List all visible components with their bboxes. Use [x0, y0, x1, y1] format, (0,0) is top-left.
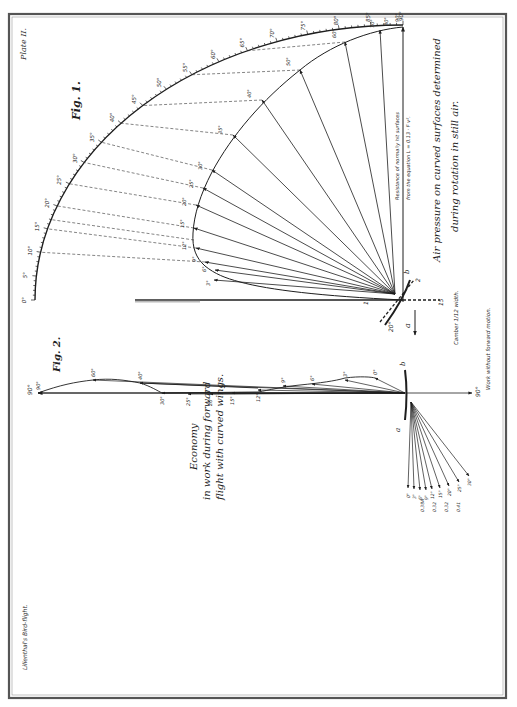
fig1: Fig. 1. 0°5°10°15°20°25°30°35°40°45°50°5…	[21, 11, 460, 345]
fig1-dashed-blade	[380, 280, 414, 322]
fig2-fan-label: 20°	[447, 488, 452, 496]
arc-tick-label: 15°	[34, 221, 40, 231]
fig2-fan-value: 0.32	[444, 502, 449, 512]
fig1-outer-arc	[35, 25, 403, 300]
fig2-polar-label: 40°	[137, 371, 143, 380]
fig2-wing-section	[405, 370, 407, 420]
arc-tick-label: 30°	[72, 153, 78, 163]
arc-tick-label: 80°	[333, 15, 339, 25]
arc-tick-label: 20°	[44, 198, 50, 208]
fig2-polar-label: 6°	[309, 375, 315, 381]
fig2-axis-end-label: 90°	[26, 384, 33, 395]
fig2-fan-value: 0.32	[432, 502, 437, 512]
fig2-side-note: Work without forward motion.	[485, 307, 491, 390]
fig2-down-axis-label: 90°	[474, 386, 481, 397]
fig2-caption-1: Economy	[188, 423, 199, 471]
plate-label: Plate II.	[19, 28, 28, 61]
fig2-polar-label: 60°	[90, 368, 96, 377]
fig1-label-2: 2	[414, 278, 421, 282]
arc-tick-label: 0°	[21, 297, 27, 303]
fig1-label-b: b	[403, 269, 411, 274]
inner-curve-label: 15°	[179, 219, 185, 228]
fig2-fan-vectors	[408, 402, 469, 490]
fig2-label: Fig. 2.	[51, 337, 62, 373]
inner-curve-label: 70°	[369, 19, 375, 28]
fig1-axis-note-1: Resistance of normally hit surfaces	[394, 112, 401, 200]
arc-tick-label: 45°	[131, 94, 137, 104]
inner-curve-label: 12°	[181, 241, 187, 250]
fig1-camber-note: Camber 1/12 width.	[453, 290, 459, 345]
arc-tick-label: 60°	[210, 49, 216, 59]
fig2-fan-label: 25°	[457, 484, 462, 492]
fig2-fan-label: 12°	[430, 491, 435, 499]
fig2-polar-label: 12°	[255, 393, 261, 402]
fig2-fan-labels: 0°3°6°9°12°15°20°25°30°0.38A0.320.320.41	[406, 478, 472, 512]
fig1-axis-note-2: from the equation L = 0.13 · F v².	[405, 116, 412, 200]
fig2-polar-label: 3°	[342, 371, 348, 377]
lilienthal-plate: Plate II. Lilienthal's Bird-flight. Fig.…	[0, 0, 517, 707]
plate-frame-inner	[12, 17, 503, 695]
arc-tick-label: 10°	[27, 246, 33, 256]
fig2-polar-label: 90°	[35, 381, 41, 390]
fig2-polar-label: 30°	[159, 396, 165, 405]
inner-curve-label: 40°	[246, 89, 252, 98]
arc-tick-label: 70°	[269, 28, 275, 38]
fig2-fan-label: 3°	[412, 494, 417, 499]
inner-curve-label: 90°	[394, 13, 400, 22]
fig1-label-1: 1	[362, 301, 369, 305]
fig1-label-a: a	[403, 323, 412, 328]
fig2-fan-label: 30°	[467, 478, 472, 486]
fig2-fan-label: 15°	[438, 490, 443, 498]
fig2-fan-value: 0.38A	[420, 499, 425, 512]
arc-tick-label: 65°	[239, 37, 245, 47]
arc-tick-label: 55°	[182, 62, 188, 72]
arc-tick-label: 75°	[300, 21, 306, 31]
inner-curve-label: 50°	[285, 57, 291, 66]
fig2-label-a: a	[394, 428, 402, 432]
fig1-pressure-vectors	[194, 30, 395, 294]
book-title: Lilienthal's Bird-flight.	[21, 604, 29, 670]
fig1-caption-2: during rotation in still air.	[449, 101, 460, 232]
fig2-caption-3: flight with curved wings.	[214, 374, 225, 501]
inner-curve-label: 20°	[181, 197, 187, 206]
fig2-caption-2: in work during forward	[201, 382, 212, 500]
fig1-label-15: 15	[437, 298, 444, 306]
fig2: Fig. 2. 90° 90° b a 0°3°6°9°12°15°20°25°…	[26, 307, 491, 512]
fig1-wing-section	[385, 280, 410, 325]
fig2-polar-label: 15°	[229, 396, 235, 405]
arc-tick-label: 25°	[56, 175, 62, 185]
inner-curve-label: 35°	[217, 125, 223, 134]
inner-curve-label: 60°	[331, 29, 337, 38]
fig2-fan-label: 0°	[406, 493, 411, 498]
inner-curve-label: 3°	[205, 280, 211, 286]
inner-curve-label: 25°	[188, 179, 194, 188]
fig2-polar-label: 25°	[185, 397, 191, 406]
arc-tick-label: 50°	[156, 77, 162, 87]
fig2-polar-label: 9°	[280, 377, 286, 383]
fig1-label: Fig. 1.	[70, 81, 83, 121]
fig1-label-20: 20°	[387, 321, 394, 332]
fig1-caption-1: Air pressure on curved surfaces determin…	[431, 38, 442, 263]
inner-curve-label: 30°	[197, 161, 203, 170]
arc-tick-label: 35°	[89, 132, 95, 142]
fig2-fan-value: 0.41	[456, 502, 461, 512]
fig1-arc-tick-labels: 0°5°10°15°20°25°30°35°40°45°50°55°60°65°…	[21, 11, 404, 303]
fig2-label-b: b	[399, 361, 407, 366]
arc-tick-label: 40°	[109, 112, 115, 122]
arc-tick-label: 5°	[22, 272, 28, 278]
fig2-polar-label: 0°	[372, 369, 378, 375]
inner-curve-label: 80°	[383, 17, 389, 26]
